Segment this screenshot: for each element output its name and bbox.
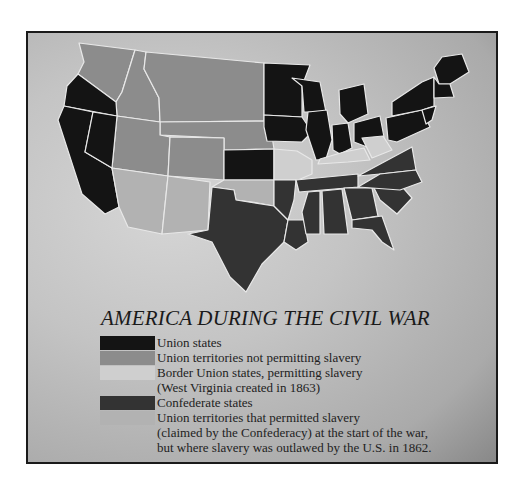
legend-label: (claimed by the Confederacy) at the star… — [157, 425, 428, 440]
legend-swatch-border — [100, 366, 155, 380]
legend-swatch-territories-slave — [100, 411, 155, 425]
legend-label: Confederate states — [157, 395, 253, 410]
legend-label: (West Virginia created in 1863) — [157, 380, 320, 395]
map-frame — [26, 31, 498, 464]
legend-label: Union territories not permitting slavery — [157, 350, 361, 365]
legend-swatch-union — [100, 336, 155, 350]
legend-label: but where slavery was outlawed by the U.… — [157, 440, 431, 455]
legend-label: Union territories that permitted slavery — [157, 410, 360, 425]
legend-label: Union states — [157, 335, 222, 350]
legend-swatch-territories-free — [100, 351, 155, 365]
us-map — [26, 31, 498, 464]
map-title: AMERICA DURING THE CIVIL WAR — [101, 306, 430, 331]
legend-label: Border Union states, permitting slavery — [157, 365, 362, 380]
legend-swatch-confederate — [100, 396, 155, 410]
